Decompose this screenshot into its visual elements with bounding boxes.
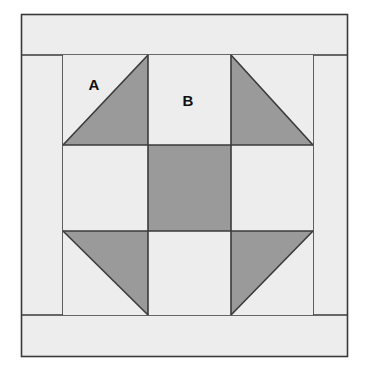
quilt-block-diagram: A B <box>0 0 367 369</box>
patch-center-square <box>148 145 231 231</box>
quilt-block-svg: A B <box>0 0 367 369</box>
patch-label-b: B <box>183 92 194 109</box>
patch-label-a: A <box>89 76 100 93</box>
